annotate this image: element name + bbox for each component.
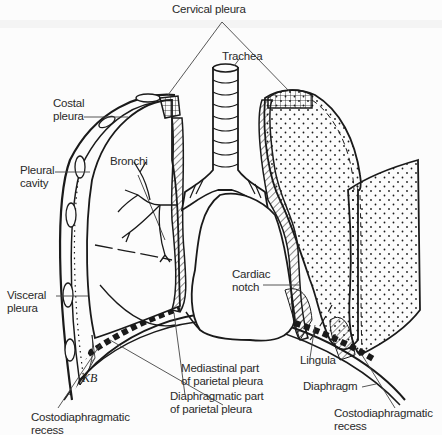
label-text: Cervical pleura — [172, 3, 246, 16]
label-text: Costodiaphragmatic — [334, 407, 433, 420]
label-text: Trachea — [222, 50, 262, 63]
label-costodiaphragmatic-recess-right: Costodiaphragmatic recess — [334, 407, 433, 433]
artist-signature: KB — [81, 371, 98, 385]
label-visceral-pleura: Visceral pleura — [7, 289, 46, 315]
label-text: pleura — [53, 110, 84, 123]
label-pleural-cavity: Pleural cavity — [20, 164, 54, 190]
label-text: Cardiac — [232, 268, 270, 281]
label-costal-pleura: Costal pleura — [53, 97, 84, 123]
label-text: Pleural — [20, 164, 54, 177]
label-text: recess — [31, 424, 130, 435]
label-text: Diaphragm — [303, 380, 357, 393]
label-diaphragmatic-part: Diaphragmatic part of parietal pleura — [170, 390, 264, 416]
label-cervical-pleura: Cervical pleura — [172, 3, 246, 16]
label-text: Lingula — [300, 354, 336, 367]
label-costodiaphragmatic-recess-left: Costodiaphragmatic recess — [31, 411, 130, 435]
label-text: Visceral — [7, 289, 46, 302]
label-trachea: Trachea — [222, 50, 262, 63]
right-lung — [60, 94, 186, 400]
label-cardiac-notch: Cardiac notch — [232, 268, 270, 294]
label-text: Costal — [53, 97, 84, 110]
label-text: Diaphragmatic part — [170, 390, 264, 403]
label-text: Bronchi — [110, 155, 148, 168]
label-text: recess — [334, 420, 433, 433]
label-text: Mediastinal part — [181, 362, 263, 375]
label-lingula: Lingula — [300, 354, 336, 367]
label-text: pleura — [7, 302, 46, 315]
label-text: notch — [232, 281, 270, 294]
label-text: Costodiaphragmatic — [31, 411, 130, 424]
pleura-diagram: KB Cervical pleura Trachea Costal pleura… — [0, 0, 442, 435]
trachea — [182, 64, 268, 210]
label-diaphragm: Diaphragm — [303, 380, 357, 393]
label-text: cavity — [20, 177, 54, 190]
label-mediastinal-part: Mediastinal part of parietal pleura — [181, 362, 263, 388]
label-text: of parietal pleura — [181, 375, 263, 388]
label-text: of parietal pleura — [170, 403, 264, 416]
label-bronchi: Bronchi — [110, 155, 148, 168]
